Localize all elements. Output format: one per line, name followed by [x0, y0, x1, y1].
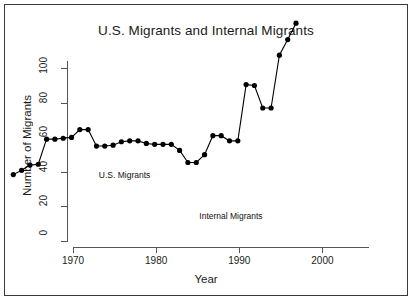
y-tick — [61, 241, 67, 242]
series-annotation: Internal Migrants — [199, 211, 262, 221]
data-point — [160, 142, 165, 147]
x-tick-label: 2000 — [311, 255, 333, 266]
data-point — [235, 138, 240, 143]
data-point — [268, 105, 273, 110]
data-point — [152, 142, 157, 147]
data-point — [293, 21, 298, 26]
data-point — [227, 138, 232, 143]
series-annotation: U.S. Migrants — [99, 170, 151, 180]
data-point — [135, 138, 140, 143]
data-point — [285, 37, 290, 42]
data-point — [94, 143, 99, 148]
data-point — [44, 137, 49, 142]
y-tick-label: 0 — [39, 230, 59, 236]
data-point — [202, 152, 207, 157]
data-point — [27, 163, 32, 168]
data-point — [86, 127, 91, 132]
data-point — [252, 83, 257, 88]
series-line — [13, 23, 296, 174]
data-point — [185, 160, 190, 165]
data-point — [127, 138, 132, 143]
data-point — [219, 133, 224, 138]
data-point — [19, 168, 24, 173]
x-axis-title: Year — [5, 273, 407, 285]
data-point — [194, 160, 199, 165]
figure-frame: U.S. Migrants and Internal Migrants Numb… — [4, 4, 408, 296]
data-point — [244, 82, 249, 87]
data-point — [210, 133, 215, 138]
data-point — [119, 139, 124, 144]
data-point — [69, 135, 74, 140]
data-point — [102, 143, 107, 148]
y-tick — [61, 206, 67, 207]
y-tick-label: 20 — [39, 195, 59, 206]
data-point — [77, 127, 82, 132]
data-point — [277, 53, 282, 58]
data-point — [144, 141, 149, 146]
data-point — [260, 105, 265, 110]
data-point — [11, 172, 16, 177]
x-axis-line — [73, 247, 369, 248]
x-tick — [156, 247, 157, 253]
data-point — [61, 136, 66, 141]
data-point — [169, 142, 174, 147]
series-plot — [5, 5, 301, 185]
x-tick — [73, 247, 74, 253]
series-markers — [11, 21, 299, 178]
chart-page: U.S. Migrants and Internal Migrants Numb… — [0, 0, 416, 304]
data-point — [36, 162, 41, 167]
x-tick-label: 1970 — [62, 255, 84, 266]
x-tick-label: 1980 — [145, 255, 167, 266]
data-point — [110, 143, 115, 148]
x-tick — [239, 247, 240, 253]
data-point — [52, 137, 57, 142]
x-tick-label: 1990 — [228, 255, 250, 266]
data-point — [177, 148, 182, 153]
x-tick — [322, 247, 323, 253]
